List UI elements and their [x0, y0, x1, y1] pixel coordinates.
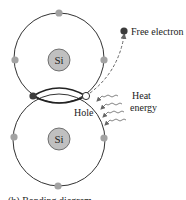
bottom-si-label: Si — [54, 133, 63, 145]
free-electron-label: Free electron — [131, 26, 183, 37]
valence-electron — [54, 182, 61, 189]
free-electron — [120, 27, 127, 34]
covalent-bond-lower — [33, 96, 86, 103]
figure-caption: (b) Bonding diagram — [8, 195, 92, 200]
valence-electron — [100, 134, 107, 141]
valence-electron — [100, 56, 107, 63]
bond-electron — [29, 92, 36, 99]
heat-energy-arrows — [98, 95, 126, 124]
valence-electron — [55, 9, 62, 16]
valence-electron — [11, 56, 18, 63]
hole-label: Hole — [74, 107, 94, 118]
silicon-bonding-diagram: Si Si Free electron Hole Heat energy (b)… — [0, 0, 186, 200]
covalent-bond-upper — [33, 88, 86, 96]
heat-label-line2: energy — [130, 102, 157, 113]
top-si-label: Si — [54, 54, 63, 66]
valence-electron — [10, 133, 17, 140]
hole — [82, 92, 89, 99]
heat-label-line1: Heat — [132, 90, 151, 101]
